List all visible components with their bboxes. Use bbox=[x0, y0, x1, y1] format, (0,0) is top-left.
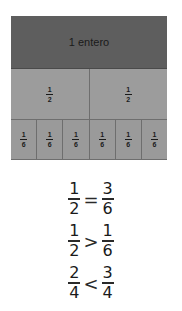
half-cell: 12 bbox=[90, 69, 168, 120]
fraction: 16 bbox=[125, 131, 132, 148]
comparison-row: 24 < 34 bbox=[68, 262, 113, 304]
fraction: 16 bbox=[72, 131, 79, 148]
sixth-cell: 16 bbox=[116, 120, 142, 160]
fraction: 16 bbox=[102, 223, 114, 259]
halves-row: 12 12 bbox=[11, 69, 167, 120]
comparison-row: 12 = 36 bbox=[68, 178, 113, 220]
fraction: 12 bbox=[68, 181, 80, 217]
comparison-row: 12 > 16 bbox=[68, 220, 113, 262]
sixth-cell: 16 bbox=[11, 120, 37, 160]
fraction: 12 bbox=[46, 86, 53, 103]
sixth-cell: 16 bbox=[63, 120, 89, 160]
fraction: 16 bbox=[20, 131, 27, 148]
whole-label: 1 entero bbox=[69, 36, 109, 48]
operator: = bbox=[83, 189, 98, 210]
half-cell: 12 bbox=[11, 69, 90, 120]
fraction: 16 bbox=[46, 131, 53, 148]
fraction: 34 bbox=[102, 265, 114, 301]
sixth-cell: 16 bbox=[37, 120, 63, 160]
fraction: 36 bbox=[102, 181, 114, 217]
comparisons: 12 = 36 12 > 16 24 < 34 bbox=[0, 178, 182, 304]
sixth-cell: 16 bbox=[90, 120, 116, 160]
operator: < bbox=[83, 273, 98, 294]
fraction: 24 bbox=[68, 265, 80, 301]
fraction: 12 bbox=[125, 86, 132, 103]
operator: > bbox=[83, 231, 98, 252]
fraction: 16 bbox=[151, 131, 158, 148]
sixths-row: 16 16 16 16 16 16 bbox=[11, 120, 167, 160]
sixth-cell: 16 bbox=[142, 120, 167, 160]
whole-bar: 1 entero bbox=[11, 16, 167, 69]
fraction: 12 bbox=[68, 223, 80, 259]
fraction: 16 bbox=[99, 131, 106, 148]
